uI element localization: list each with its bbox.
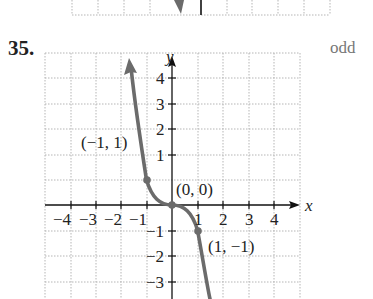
y-tick-label: 1 xyxy=(156,146,165,165)
x-tick-label: 2 xyxy=(219,210,228,229)
y-axis-label: y xyxy=(164,47,174,66)
x-tick-label: 1 xyxy=(194,210,203,229)
point-neg1-1 xyxy=(143,176,151,184)
x-tick-label: −1 xyxy=(129,210,147,229)
y-tick-label: −1 xyxy=(146,222,164,241)
point-label: (1, −1) xyxy=(208,237,254,256)
y-tick-label: 3 xyxy=(156,95,165,114)
x-tick-label: −4 xyxy=(53,210,72,229)
point-label: (0, 0) xyxy=(176,180,213,199)
y-tick-label: 2 xyxy=(156,120,165,139)
x-tick-label: 4 xyxy=(270,210,279,229)
point-label: (−1, 1) xyxy=(81,133,127,152)
x-tick-label: 3 xyxy=(245,210,254,229)
x-tick-label: −3 xyxy=(79,210,97,229)
point-origin xyxy=(168,201,176,209)
x-tick-label: −2 xyxy=(104,210,122,229)
y-tick-label: 4 xyxy=(156,69,165,88)
x-axis-label: x xyxy=(304,196,313,215)
cubic-graph: y x −4 −3 −2 −1 1 2 3 4 4 3 2 1 −1 −2 −3… xyxy=(0,0,373,299)
y-tick-label: −3 xyxy=(146,273,164,292)
y-tick-label: −2 xyxy=(146,247,164,266)
axes xyxy=(45,64,292,299)
